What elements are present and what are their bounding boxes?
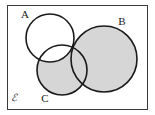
venn-diagram-canvas: A B C ℰ (0, 0, 155, 115)
set-a-label: A (21, 8, 29, 20)
set-b-label: B (118, 15, 125, 27)
set-c-label: C (41, 92, 48, 104)
venn-diagram-figure: A B C ℰ (0, 0, 155, 115)
universal-set-label: ℰ (11, 92, 18, 103)
